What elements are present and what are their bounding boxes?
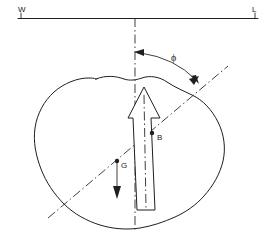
heel-angle-arc <box>141 53 196 80</box>
gravity-force-arrow-head <box>113 186 121 199</box>
diagram-svg: B G W L ϕ <box>0 0 268 245</box>
body-cross-section-outline <box>34 76 224 229</box>
heel-angle-arc-arrowhead-start <box>134 49 144 56</box>
gravity-point-marker <box>115 159 119 163</box>
water-line-group <box>18 13 258 19</box>
gravity-point-label: G <box>121 161 127 170</box>
water-surface-right-label: L <box>252 5 257 14</box>
heel-angle-label: ϕ <box>171 52 176 63</box>
water-surface-left-label: W <box>18 5 26 14</box>
buoyancy-point-marker <box>150 131 154 135</box>
buoyancy-point-label: B <box>157 133 162 142</box>
diagram-canvas: B G W L ϕ <box>0 0 268 245</box>
buoyancy-force-arrow <box>128 87 160 210</box>
